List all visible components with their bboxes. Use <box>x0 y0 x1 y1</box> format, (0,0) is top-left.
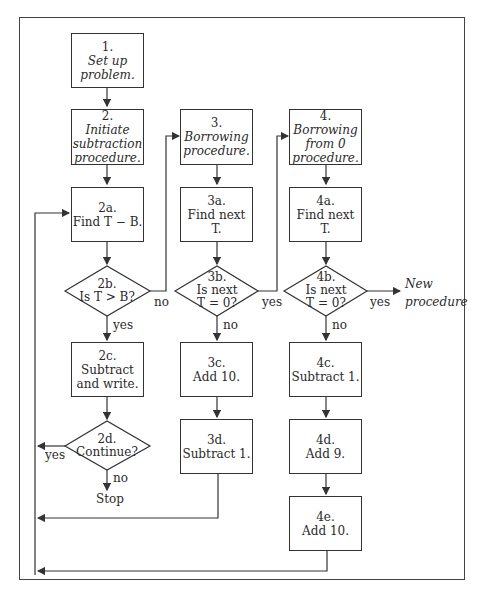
step-2c-box: 2c. Subtract and write. <box>71 342 144 397</box>
step-number: 1. <box>102 40 113 54</box>
step-text: Is T > B? <box>79 291 135 304</box>
step-number: 4b. <box>316 271 335 284</box>
step-2-box: 2. Initiate subtraction procedure. <box>71 109 144 165</box>
step-4a-box: 4a. Find next T. <box>289 187 362 242</box>
step-2a-box: 2a. Find T − B. <box>71 187 144 242</box>
step-text: Set up <box>88 54 127 68</box>
step-number: 2. <box>102 109 113 123</box>
decision-4b: 4b. Is next T = 0? <box>291 268 361 312</box>
edge-label-2d-yes: yes <box>45 449 65 462</box>
step-text: Find T − B. <box>73 215 143 229</box>
step-text: Subtract <box>81 363 134 377</box>
step-number: 2c. <box>98 349 116 363</box>
step-text: from 0 <box>305 137 345 151</box>
step-1-box: 1. Set up problem. <box>71 33 144 88</box>
step-text: Initiate <box>85 123 129 137</box>
step-text: procedure. <box>183 144 250 158</box>
decision-2b: 2b. Is T > B? <box>72 270 142 312</box>
step-text: Subtract 1. <box>291 370 359 384</box>
step-4-box: 4. Borrowing from 0 procedure. <box>289 109 362 165</box>
stop-label: Stop <box>96 493 124 506</box>
step-text: Subtract 1. <box>182 447 250 461</box>
step-4e-box: 4e. Add 10. <box>289 496 362 551</box>
step-text: T = 0? <box>197 297 237 310</box>
step-text: and write. <box>77 377 139 391</box>
new-procedure-line: procedure <box>405 293 468 311</box>
step-number: 4a. <box>316 194 335 208</box>
step-text: Continue? <box>76 446 138 459</box>
decision-3b: 3b. Is next T = 0? <box>182 268 252 312</box>
step-number: 4d. <box>316 433 335 447</box>
step-text: Borrowing <box>184 130 248 144</box>
edge-label-2b-no: no <box>154 296 169 309</box>
new-procedure-label: New procedure <box>405 275 468 311</box>
step-3a-box: 3a. Find next T. <box>180 187 253 242</box>
step-text: Add 10. <box>302 524 349 538</box>
step-3-box: 3. Borrowing procedure. <box>180 109 253 165</box>
step-number: 4e. <box>316 510 335 524</box>
step-number: 3a. <box>207 194 226 208</box>
edge-label-3b-no: no <box>223 319 238 332</box>
new-procedure-line: New <box>405 275 468 293</box>
edge-label-3b-yes: yes <box>262 296 282 309</box>
step-text: Borrowing <box>293 123 357 137</box>
step-number: 2a. <box>98 201 117 215</box>
step-text: T = 0? <box>306 297 346 310</box>
step-number: 3c. <box>207 356 225 370</box>
step-text: Is next <box>196 284 237 297</box>
step-4d-box: 4d. Add 9. <box>289 419 362 474</box>
step-text: Find next T. <box>181 208 252 236</box>
step-3d-box: 3d. Subtract 1. <box>180 419 253 474</box>
edge-label-2d-no: no <box>113 472 128 485</box>
step-text: problem. <box>80 68 134 82</box>
step-number: 3b. <box>207 271 226 284</box>
step-3c-box: 3c. Add 10. <box>180 342 253 397</box>
step-number: 3d. <box>207 433 226 447</box>
step-text: procedure. <box>74 151 141 165</box>
step-text: Is next <box>305 284 346 297</box>
edge-label-2b-yes: yes <box>113 319 133 332</box>
step-number: 4. <box>320 109 331 123</box>
edge-label-4b-no: no <box>332 319 347 332</box>
step-text: Add 9. <box>306 447 345 461</box>
edge-label-4b-yes: yes <box>370 296 390 309</box>
step-text: Add 10. <box>193 370 240 384</box>
decision-2d: 2d. Continue? <box>72 426 142 466</box>
step-text: procedure. <box>292 151 359 165</box>
step-text: Find next T. <box>290 208 361 236</box>
step-text: subtraction <box>73 137 143 151</box>
step-4c-box: 4c. Subtract 1. <box>289 342 362 397</box>
step-number: 4c. <box>316 356 334 370</box>
step-number: 3. <box>211 116 222 130</box>
